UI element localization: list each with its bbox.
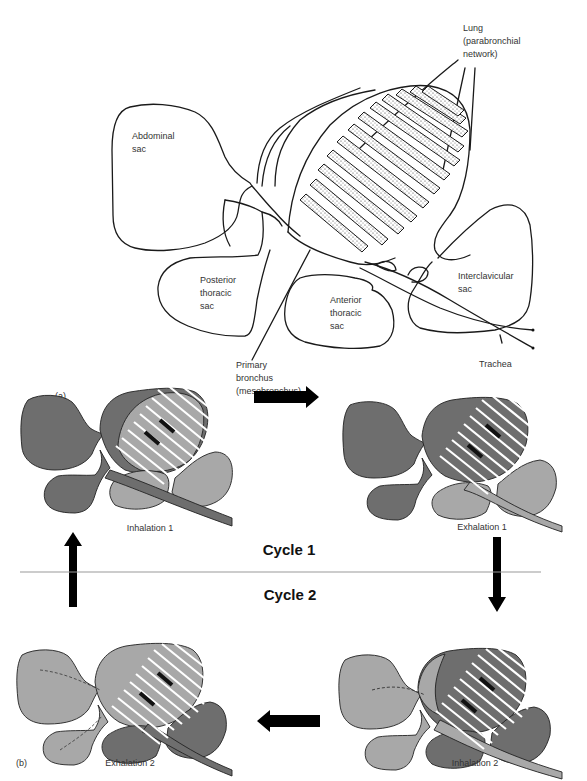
stage-exhalation-1 bbox=[343, 388, 562, 532]
abdominal-sac bbox=[339, 655, 422, 729]
panel-b-letter: (b) bbox=[16, 758, 27, 768]
caption-exhalation-1: Exhalation 1 bbox=[457, 522, 507, 532]
right-arrow bbox=[254, 386, 319, 408]
caption-inhalation-1: Inhalation 1 bbox=[127, 523, 174, 533]
cycle-2-label: Cycle 2 bbox=[264, 586, 317, 603]
stage-inhalation-2 bbox=[339, 643, 562, 779]
caption-inhalation-2: Inhalation 2 bbox=[452, 758, 499, 768]
stage-inhalation-1 bbox=[21, 378, 232, 526]
cycle-1-label: Cycle 1 bbox=[263, 541, 316, 558]
abdominal-sac bbox=[17, 650, 100, 724]
caption-exhalation-2: Exhalation 2 bbox=[105, 758, 155, 768]
left-arrow bbox=[257, 710, 320, 732]
panel-b-diagram bbox=[0, 0, 587, 781]
lung bbox=[422, 397, 528, 482]
abdominal-sac bbox=[21, 395, 104, 470]
abdominal-sac bbox=[343, 402, 425, 478]
up-arrow bbox=[64, 532, 82, 607]
stage-exhalation-2 bbox=[17, 638, 232, 776]
down-arrow bbox=[488, 537, 506, 612]
